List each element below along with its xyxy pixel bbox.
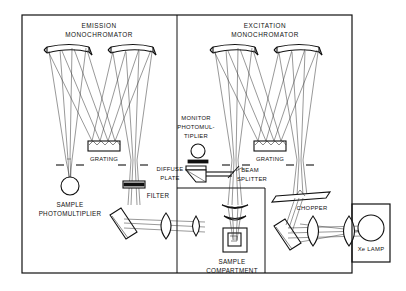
lamp-condenser-lens-1 — [308, 216, 319, 246]
xenon-arc-lamp — [358, 215, 384, 241]
emission-monochromator-label-line2: MONOCHROMATOR — [65, 31, 133, 38]
sample-photomultiplier-label-line2: PHOTOMULTIPLIER — [39, 210, 102, 217]
monitor-photomultiplier-label-line3: TIPLIER — [184, 133, 208, 139]
excitation-collimating-mirror-left — [210, 45, 258, 56]
diffuse-plate-label-line2: PLATE — [160, 175, 179, 181]
diffuse-plate: DIFFUSE PLATE — [157, 166, 206, 182]
chopper-wheel: CHOPPER — [272, 190, 330, 211]
xe-lamp-label: Xe LAMP — [358, 246, 385, 252]
monitor-photomultiplier-label-line2: PHOTOMUL- — [177, 124, 215, 130]
emission-collection-lens — [161, 213, 171, 239]
optical-diagram-figure: EMISSION MONOCHROMATOR — [0, 0, 406, 291]
emission-grating-label: GRATING — [90, 156, 118, 162]
emission-field-lens — [193, 216, 200, 236]
emission-collimating-mirror-left — [44, 45, 92, 56]
sample-compartment-label-line2: COMPARTMENT — [206, 267, 258, 274]
sample-photomultiplier: SAMPLE PHOTOMULTIPLIER — [39, 177, 102, 217]
sample-excitation-lens-lower — [224, 216, 246, 220]
sample-compartment: SAMPLE COMPARTMENT — [206, 205, 258, 274]
excitation-beam-down — [228, 160, 242, 205]
optical-filter-label: FILTER — [147, 192, 170, 199]
chopper-label: CHOPPER — [297, 205, 328, 211]
instrument-outer-frame — [22, 15, 352, 273]
monitor-photomultiplier — [188, 144, 208, 163]
beam-splitter-label-line2: SPLITTER — [237, 176, 267, 182]
excitation-monochromator-label-line2: MONOCHROMATOR — [231, 31, 299, 38]
excitation-diffraction-grating: GRATING — [254, 141, 286, 162]
monitor-channel: MONITOR PHOTOMUL- TIPLIER DIFFUSE PLATE … — [157, 115, 268, 182]
emission-collimating-mirror-right — [108, 45, 156, 56]
excitation-collimating-mirror-right — [274, 45, 322, 56]
sample-excitation-lens-upper — [222, 205, 248, 209]
optical-filter: FILTER — [123, 181, 170, 199]
lamp-house: CHOPPER Xe LAMP — [272, 190, 390, 262]
emission-monochromator-label-line1: EMISSION — [81, 22, 116, 29]
diffuse-plate-label-line1: DIFFUSE — [157, 166, 184, 172]
sample-photomultiplier-label-line1: SAMPLE — [56, 201, 83, 208]
excitation-beam-from-chopper — [293, 160, 307, 196]
monitor-photomultiplier-label-line1: MONITOR — [181, 115, 210, 121]
lamp-condenser-lens-2 — [344, 216, 355, 246]
emission-diffraction-grating: GRATING — [88, 141, 120, 162]
excitation-grating-label: GRATING — [256, 156, 284, 162]
cuvette — [223, 228, 247, 252]
excitation-monochromator-label-line1: EXCITATION — [244, 22, 286, 29]
beam-splitter-label-line1: BEAM — [241, 167, 259, 173]
diagram-canvas: EMISSION MONOCHROMATOR — [0, 0, 406, 291]
sample-compartment-label-line1: SAMPLE — [218, 258, 245, 265]
emission-monochromator: EMISSION MONOCHROMATOR — [39, 22, 205, 239]
lamp-folding-mirror — [274, 219, 301, 250]
